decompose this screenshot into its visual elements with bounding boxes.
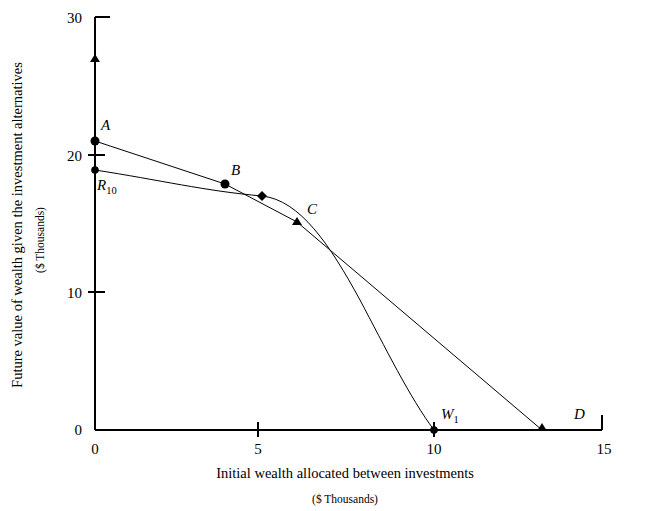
chart-figure: 0 10 20 30 0 5 10 15 <box>0 0 646 511</box>
chart-svg: 0 10 20 30 0 5 10 15 <box>0 0 646 511</box>
point-w1-marker <box>430 426 438 434</box>
point-r10-label: R10 <box>96 177 117 196</box>
point-c-label: C <box>307 201 318 217</box>
axes-group <box>95 17 602 430</box>
point-b-label: B <box>231 162 240 178</box>
y-axis-title: Future value of wealth given the investm… <box>9 62 25 388</box>
point-w1-label: W1 <box>441 406 459 425</box>
point-d-label: D <box>573 406 585 422</box>
y-axis-subtitle: ($ Thousands) <box>34 207 47 273</box>
x-tick-label-0: 0 <box>91 441 99 457</box>
y-tick-label-0: 0 <box>75 422 83 438</box>
x-axis-title: Initial wealth allocated between investm… <box>216 465 474 481</box>
y-tick-labels: 0 10 20 30 <box>67 10 82 438</box>
y-ticks-group <box>88 155 105 292</box>
x-tick-label-10: 10 <box>427 441 442 457</box>
point-c-marker-triangle <box>292 217 302 225</box>
point-a-label: A <box>100 117 111 133</box>
x-axis-subtitle: ($ Thousands) <box>312 493 378 506</box>
series-curve-r10-to-w1 <box>95 170 434 430</box>
y-tick-label-30: 30 <box>67 10 82 26</box>
series-line-a-to-d <box>95 141 542 430</box>
markers-group <box>90 54 547 434</box>
x-tick-label-15: 15 <box>597 441 612 457</box>
point-a-marker <box>91 137 100 146</box>
y-tick-label-20: 20 <box>67 148 82 164</box>
point-r10-marker <box>91 166 99 174</box>
point-tangency-diamond <box>257 191 267 201</box>
x-tick-labels: 0 5 10 15 <box>91 441 611 457</box>
axis-top-marker-triangle <box>90 54 100 62</box>
y-tick-label-10: 10 <box>67 285 82 301</box>
x-tick-label-5: 5 <box>254 441 262 457</box>
point-labels-group: A R10 B C W1 D <box>96 117 585 425</box>
point-b-marker <box>221 180 230 189</box>
